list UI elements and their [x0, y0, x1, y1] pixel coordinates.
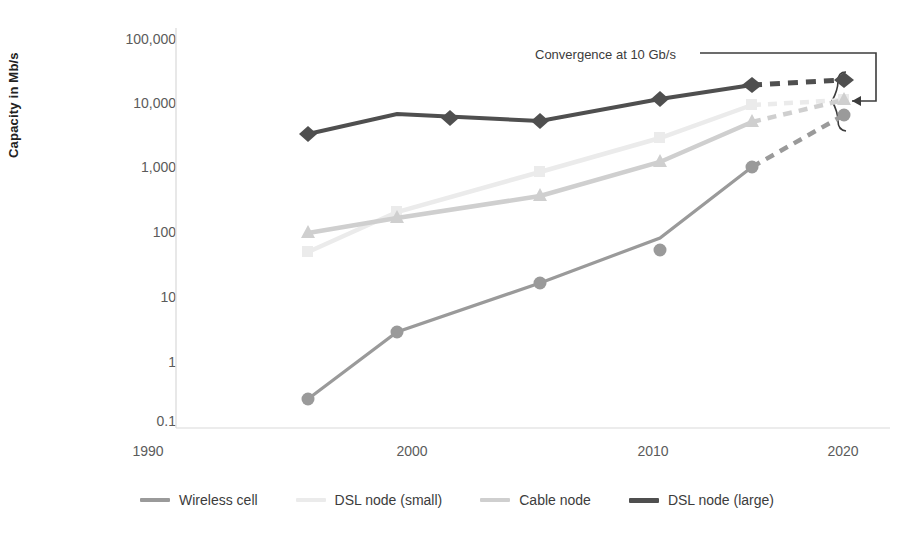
chart-container: Capacity in Mb/s 100,000 10,000 1,000 10… — [0, 0, 914, 541]
data-point-marker — [302, 246, 313, 257]
legend-swatch-icon — [296, 498, 326, 502]
data-point-marker — [534, 277, 547, 290]
convergence-callout — [700, 53, 876, 131]
legend-item-cable-node[interactable]: Cable node — [480, 492, 591, 508]
data-point-marker — [742, 77, 762, 93]
data-point-marker — [299, 126, 317, 142]
data-point-marker — [746, 161, 759, 174]
legend-label: DSL node (large) — [668, 492, 774, 508]
data-point-marker — [651, 91, 669, 107]
series-wireless-cell — [302, 109, 851, 406]
legend-swatch-icon — [480, 498, 510, 502]
data-point-marker — [654, 244, 667, 257]
legend-label: DSL node (small) — [335, 492, 443, 508]
legend-item-wireless-cell[interactable]: Wireless cell — [140, 492, 258, 508]
legend-label: Cable node — [519, 492, 591, 508]
data-point-marker — [391, 326, 404, 339]
data-point-marker — [534, 166, 545, 177]
data-point-marker — [838, 109, 851, 122]
data-point-marker — [654, 132, 665, 143]
chart-legend: Wireless cell DSL node (small) Cable nod… — [0, 492, 914, 508]
legend-item-dsl-node-large[interactable]: DSL node (large) — [629, 492, 774, 508]
legend-label: Wireless cell — [179, 492, 258, 508]
series-dsl-node-large — [299, 72, 854, 142]
legend-swatch-icon — [629, 498, 659, 503]
data-point-marker — [302, 393, 315, 406]
data-point-marker — [441, 110, 459, 126]
plot-area — [0, 0, 914, 541]
data-point-marker — [746, 99, 757, 110]
data-point-marker — [531, 113, 549, 129]
legend-item-dsl-node-small[interactable]: DSL node (small) — [296, 492, 443, 508]
legend-swatch-icon — [140, 498, 170, 502]
